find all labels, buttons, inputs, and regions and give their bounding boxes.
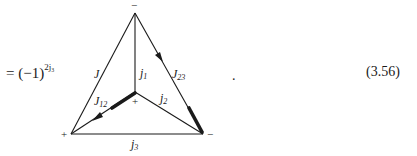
label-j1: j1 bbox=[138, 66, 147, 81]
thick-segment-J23 bbox=[189, 108, 202, 132]
edge-J bbox=[71, 13, 135, 134]
label-j3: j3 bbox=[129, 137, 138, 152]
label-J12: J12 bbox=[94, 94, 107, 109]
sign-bottom-right: − bbox=[207, 128, 213, 140]
sign-center: + bbox=[132, 95, 138, 107]
trailing-period: . bbox=[232, 68, 236, 84]
label-J23: J23 bbox=[172, 67, 185, 82]
sign-bottom-left: + bbox=[61, 128, 67, 140]
equation-number: (3.56) bbox=[366, 64, 400, 80]
arrow-J12-icon bbox=[92, 112, 103, 121]
arrow-J23-icon bbox=[155, 52, 163, 62]
label-J: J bbox=[94, 67, 100, 81]
label-j2: j2 bbox=[158, 91, 167, 106]
sign-top: − bbox=[131, 0, 137, 11]
recoupling-diagram: − + − + J j1 J23 J12 j2 j3 bbox=[0, 0, 417, 156]
